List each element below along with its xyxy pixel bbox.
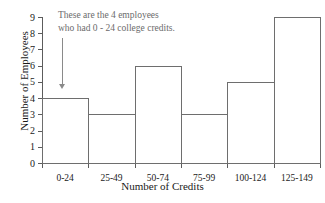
annotation-arrow-shaft: [62, 38, 63, 86]
histogram-bar: [274, 17, 321, 164]
y-tick-label: 9: [20, 17, 35, 18]
annotation-callout: These are the 4 employees who had 0 - 24…: [58, 9, 238, 34]
y-tick-label: 4: [20, 98, 35, 99]
y-tick-label: 8: [20, 33, 35, 34]
histogram-bar: [88, 114, 136, 164]
histogram-bar: [181, 114, 228, 164]
histogram-bar: [227, 82, 275, 164]
y-tick-label: 6: [20, 65, 35, 66]
x-tick-mark: [135, 164, 136, 168]
histogram-bar: [135, 66, 182, 164]
y-tick-label: 2: [20, 130, 35, 131]
x-tick-mark: [42, 164, 43, 168]
histogram-bar: [42, 98, 89, 164]
x-tick-mark: [181, 164, 182, 168]
y-tick-label: 0: [20, 163, 35, 164]
plot-area: 0123456789 0-2425-4950-7475-99100-124125…: [42, 17, 320, 163]
histogram-figure: Number of Employees 0123456789 0-2425-49…: [0, 0, 325, 203]
annotation-line-2: who had 0 - 24 college credits.: [58, 22, 238, 35]
y-tick-label: 7: [20, 49, 35, 50]
x-tick-mark: [274, 164, 275, 168]
x-tick-mark: [88, 164, 89, 168]
y-tick-mark: [38, 82, 42, 83]
x-tick-mark: [320, 164, 321, 168]
annotation-line-1: These are the 4 employees: [58, 9, 238, 22]
y-tick-mark: [38, 49, 42, 50]
y-tick-mark: [38, 33, 42, 34]
y-tick-label: 1: [20, 146, 35, 147]
annotation-arrow-head: [59, 84, 65, 89]
x-axis-title: Number of Credits: [0, 180, 325, 192]
y-tick-mark: [38, 17, 42, 18]
y-tick-label: 5: [20, 81, 35, 82]
y-tick-mark: [38, 66, 42, 67]
y-tick-label: 3: [20, 114, 35, 115]
x-tick-mark: [227, 164, 228, 168]
